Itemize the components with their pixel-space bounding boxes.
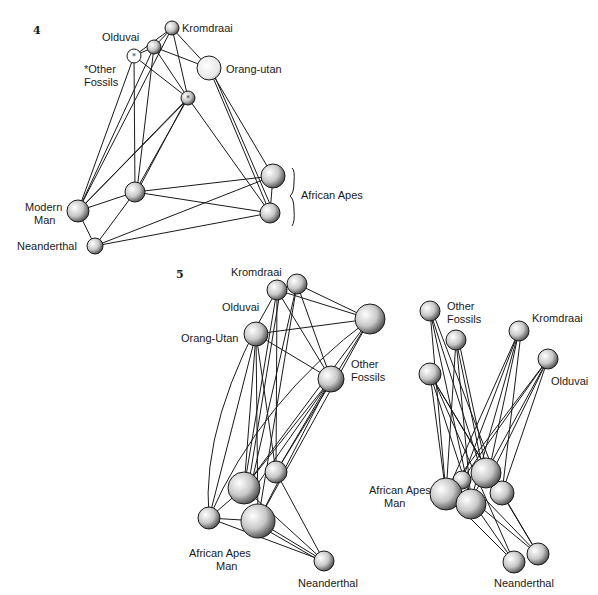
node-african-apes-2 <box>198 507 220 529</box>
node-african-apes <box>228 472 260 504</box>
node-olduvai <box>287 274 307 294</box>
label-olduvai: Olduvai <box>222 301 259 313</box>
node-cluster-a <box>265 461 287 483</box>
label-neanderthal: Neanderthal <box>494 577 554 589</box>
node-kromdraai <box>509 321 529 341</box>
label-other-fossils-1: *Other <box>84 63 116 75</box>
panel-4-edges <box>78 28 273 246</box>
asterisk-icon: * <box>132 52 136 61</box>
label-other-fossils-1: Other <box>447 300 475 312</box>
panel-number-4: 4 <box>33 24 41 37</box>
label-olduvai: Olduvai <box>102 31 139 43</box>
panel-4-nodes: * * <box>67 21 285 254</box>
node-kromdraai <box>165 21 179 35</box>
node-african-apes-1 <box>261 164 285 188</box>
node-neanderthal <box>503 551 525 573</box>
brace-icon <box>290 168 294 226</box>
panel-5-right-edges <box>430 311 548 562</box>
label-african-apes: African Apes <box>301 189 363 201</box>
node-orang-utan <box>197 56 221 80</box>
node-mid <box>125 182 145 202</box>
asterisk-icon: * <box>186 94 190 103</box>
node-african-apes-2 <box>260 203 280 223</box>
label-man: Man <box>384 497 405 509</box>
node-neanderthal <box>314 551 334 571</box>
node-fossil-b <box>446 330 466 350</box>
label-orang-utan: Orang-Utan <box>181 332 238 344</box>
panel-4: 4 <box>17 21 363 254</box>
node-man <box>241 504 275 538</box>
node-neanderthal-2 <box>527 543 549 565</box>
label-modern-man-1: Modern <box>25 201 62 213</box>
label-kromdraai: Kromdraai <box>532 312 583 324</box>
label-other-fossils-1: Other <box>351 358 379 370</box>
node-neanderthal <box>87 238 103 254</box>
label-kromdraai: Kromdraai <box>182 22 233 34</box>
node-orang-utan <box>244 322 268 346</box>
label-modern-man-2: Man <box>34 214 55 226</box>
node-other-fossils <box>420 301 440 321</box>
node-fossil <box>355 304 385 334</box>
label-olduvai: Olduvai <box>551 375 588 387</box>
node-kromdraai <box>267 280 287 300</box>
label-other-fossils-2: Fossils <box>351 371 386 383</box>
panel-number-5: 5 <box>176 268 184 281</box>
node-orang-utan <box>419 363 441 385</box>
label-other-fossils-2: Fossils <box>447 313 482 325</box>
label-african-apes: African Apes <box>189 547 251 559</box>
label-orang-utan: Orang-utan <box>226 63 282 75</box>
label-man: Man <box>216 560 237 572</box>
label-kromdraai: Kromdraai <box>231 266 282 278</box>
panel-5-left: 5 <box>176 266 386 589</box>
label-neanderthal: Neanderthal <box>17 240 77 252</box>
node-modern-man <box>67 200 89 222</box>
label-other-fossils-2: Fossils <box>84 76 119 88</box>
panel-5-right: Other Fossils Kromdraai Olduvai African … <box>369 300 588 589</box>
node-olduvai <box>147 40 161 54</box>
hominoid-distance-diagrams: 4 <box>0 0 598 595</box>
node-man <box>456 489 486 519</box>
label-neanderthal: Neanderthal <box>298 577 358 589</box>
node-other-fossils <box>318 366 344 392</box>
panel-5-left-edges <box>208 284 370 562</box>
node-olduvai <box>538 349 558 369</box>
label-african-apes: African Apes <box>369 484 431 496</box>
node-cluster-top <box>471 458 501 488</box>
